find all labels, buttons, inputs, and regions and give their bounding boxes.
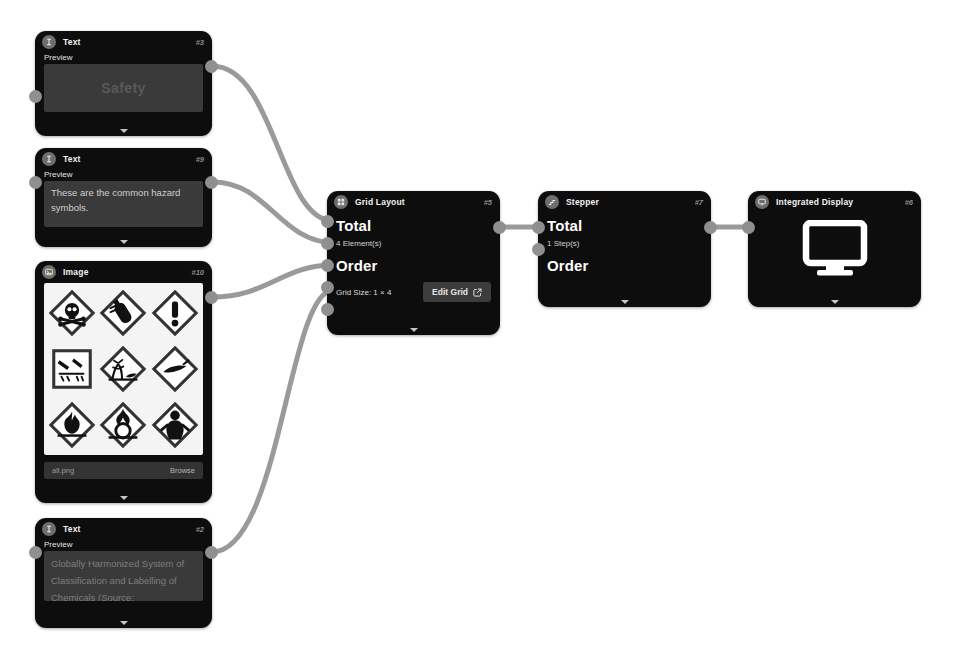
node-id: #9 bbox=[196, 155, 204, 164]
output-port[interactable] bbox=[493, 221, 506, 234]
input-port-1[interactable] bbox=[532, 221, 545, 234]
edge-text9-to-grid bbox=[212, 182, 333, 243]
collapse-chevron-icon[interactable] bbox=[621, 300, 629, 304]
total-label: Total bbox=[327, 217, 500, 234]
input-port[interactable] bbox=[742, 221, 755, 234]
node-header[interactable]: Grid Layout #5 bbox=[327, 191, 500, 213]
edge-text2-to-grid bbox=[212, 290, 333, 552]
output-port[interactable] bbox=[205, 546, 218, 559]
collapse-chevron-icon[interactable] bbox=[831, 300, 839, 304]
preview-row-label: Preview bbox=[35, 540, 212, 551]
pictogram-health-hazard bbox=[151, 401, 199, 449]
node-header[interactable]: Stepper #7 bbox=[538, 191, 711, 213]
pictogram-oxidizer bbox=[99, 401, 147, 449]
display-monitor-icon bbox=[748, 213, 921, 285]
node-grid-layout[interactable]: Grid Layout #5 Total 4 Element(s) Order … bbox=[327, 191, 500, 335]
edge-image10-to-grid bbox=[212, 265, 333, 297]
collapse-chevron-icon[interactable] bbox=[120, 621, 128, 625]
text-preview-box[interactable]: Globally Harmonized System of Classifica… bbox=[44, 551, 203, 601]
text-cursor-icon bbox=[42, 35, 56, 49]
external-link-icon bbox=[473, 288, 482, 297]
node-header[interactable]: Text #9 bbox=[35, 148, 212, 170]
node-integrated-display[interactable]: Integrated Display #6 bbox=[748, 191, 921, 307]
node-image[interactable]: Image #10 bbox=[35, 261, 212, 503]
node-title: Text bbox=[63, 37, 81, 47]
input-port[interactable] bbox=[29, 546, 42, 559]
collapse-chevron-icon[interactable] bbox=[120, 496, 128, 500]
file-name-label: all.png bbox=[52, 466, 74, 475]
edit-grid-button[interactable]: Edit Grid bbox=[423, 282, 491, 302]
node-header[interactable]: Text #3 bbox=[35, 31, 212, 53]
node-id: #10 bbox=[191, 268, 204, 277]
order-label: Order bbox=[327, 257, 500, 274]
node-header[interactable]: Image #10 bbox=[35, 261, 212, 283]
total-label: Total bbox=[538, 217, 711, 234]
stepper-icon bbox=[545, 195, 559, 209]
node-title: Text bbox=[63, 154, 81, 164]
pictogram-gas-cylinder bbox=[99, 289, 147, 337]
input-port[interactable] bbox=[29, 176, 42, 189]
grid-icon bbox=[334, 195, 348, 209]
input-port[interactable] bbox=[29, 90, 42, 103]
input-port-4[interactable] bbox=[321, 281, 334, 294]
preview-row-label: Preview bbox=[35, 170, 212, 181]
grid-size-row: Grid Size: 1 × 4 Edit Grid bbox=[327, 282, 500, 302]
node-title: Stepper bbox=[566, 197, 599, 207]
input-port-2[interactable] bbox=[532, 243, 545, 256]
node-id: #5 bbox=[484, 198, 492, 207]
node-text-ghs[interactable]: Text #2 Preview Globally Harmonized Syst… bbox=[35, 518, 212, 628]
pictogram-flame bbox=[48, 401, 96, 449]
grid-size-label: Grid Size: 1 × 4 bbox=[336, 288, 391, 297]
collapse-chevron-icon[interactable] bbox=[120, 240, 128, 244]
node-id: #6 bbox=[905, 198, 913, 207]
text-cursor-icon bbox=[42, 522, 56, 536]
node-text-hazard[interactable]: Text #9 Preview These are the common haz… bbox=[35, 148, 212, 247]
total-value: 1 Step(s) bbox=[538, 239, 711, 248]
text-preview-box[interactable]: These are the common hazard symbols. bbox=[44, 181, 203, 227]
input-port-5[interactable] bbox=[321, 303, 334, 316]
output-port[interactable] bbox=[205, 291, 218, 304]
preview-row-label: Preview bbox=[35, 53, 212, 64]
node-id: #2 bbox=[196, 525, 204, 534]
input-port-3[interactable] bbox=[321, 259, 334, 272]
text-preview-box[interactable]: Safety bbox=[44, 64, 203, 112]
output-port[interactable] bbox=[205, 60, 218, 73]
file-row[interactable]: all.png Browse bbox=[44, 462, 203, 479]
node-title: Image bbox=[63, 267, 89, 277]
node-id: #7 bbox=[695, 198, 703, 207]
image-preview[interactable] bbox=[44, 283, 203, 455]
output-port[interactable] bbox=[704, 221, 717, 234]
node-header[interactable]: Text #2 bbox=[35, 518, 212, 540]
monitor-icon bbox=[755, 195, 769, 209]
pictogram-skull-crossbones bbox=[48, 289, 96, 337]
pictogram-environment bbox=[99, 345, 147, 393]
pictogram-corrosion bbox=[48, 345, 96, 393]
edit-grid-label: Edit Grid bbox=[432, 287, 468, 297]
input-port-1[interactable] bbox=[321, 215, 334, 228]
output-port[interactable] bbox=[205, 176, 218, 189]
node-stepper[interactable]: Stepper #7 Total 1 Step(s) Order bbox=[538, 191, 711, 307]
browse-button[interactable]: Browse bbox=[170, 466, 195, 475]
pictogram-exclamation-mark bbox=[151, 289, 199, 337]
text-cursor-icon bbox=[42, 152, 56, 166]
collapse-chevron-icon[interactable] bbox=[410, 328, 418, 332]
node-title: Grid Layout bbox=[355, 197, 405, 207]
order-label: Order bbox=[538, 257, 711, 274]
edge-text3-to-grid bbox=[212, 66, 333, 221]
input-port-2[interactable] bbox=[321, 237, 334, 250]
node-header[interactable]: Integrated Display #6 bbox=[748, 191, 921, 213]
node-title: Integrated Display bbox=[776, 197, 853, 207]
image-icon bbox=[42, 265, 56, 279]
collapse-chevron-icon[interactable] bbox=[120, 129, 128, 133]
total-value: 4 Element(s) bbox=[327, 239, 500, 248]
node-text-safety[interactable]: Text #3 Preview Safety bbox=[35, 31, 212, 136]
pictogram-explosive-bomb bbox=[151, 345, 199, 393]
node-id: #3 bbox=[196, 38, 204, 47]
node-graph-canvas[interactable]: Text #3 Preview Safety Text #9 Preview T… bbox=[0, 0, 954, 663]
node-title: Text bbox=[63, 524, 81, 534]
